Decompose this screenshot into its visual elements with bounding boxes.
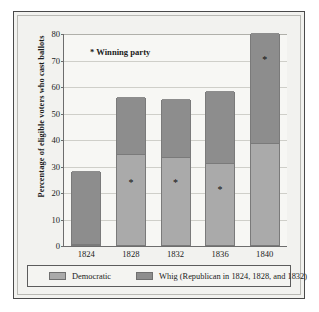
y-tick-mark [61, 34, 64, 35]
y-tick-label: 30 [51, 162, 60, 172]
x-tick-label: 1832 [167, 249, 184, 259]
bar-segment-whig [206, 91, 234, 164]
bar-segment-democratic [162, 158, 190, 245]
y-tick-label: 80 [51, 29, 60, 39]
plot-area: * Winning party 010203040506070801824182… [63, 34, 287, 247]
legend-swatch-whig [136, 272, 153, 280]
bar-segment-whig [251, 33, 279, 144]
legend-swatch-democratic [49, 272, 66, 280]
winning-party-marker: * [218, 185, 223, 195]
bar-segment-whig [162, 99, 190, 157]
bar-1824: 1824 [71, 172, 101, 246]
y-tick-label: 0 [56, 241, 60, 251]
legend-label-democratic: Democratic [72, 272, 111, 281]
x-tick-label: 1828 [122, 249, 139, 259]
y-tick-label: 60 [51, 82, 60, 92]
winning-party-marker: * [173, 178, 178, 188]
y-tick-mark [61, 61, 64, 62]
x-tick-label: 1836 [212, 249, 229, 259]
y-tick-label: 50 [51, 109, 60, 119]
y-tick-mark [61, 246, 64, 247]
bar-segment-whig [72, 171, 100, 245]
chart-figure-inner: Percentage of eligible voters who cast b… [17, 15, 301, 295]
y-tick-mark [61, 114, 64, 115]
x-tick-label: 1824 [78, 249, 95, 259]
legend-item-democratic: Democratic [49, 272, 111, 281]
y-tick-label: 10 [51, 215, 60, 225]
bar-1840: 1840 [250, 34, 280, 246]
bar-segment-democratic [251, 144, 279, 245]
bar-segment-democratic [117, 155, 145, 245]
bar-1832: 1832 [161, 100, 191, 246]
y-tick-mark [61, 140, 64, 141]
y-tick-mark [61, 193, 64, 194]
chart-legend: Democratic Whig (Republican in 1824, 182… [27, 265, 291, 287]
x-tick-label: 1840 [256, 249, 273, 259]
y-tick-label: 20 [51, 188, 60, 198]
y-tick-mark [61, 220, 64, 221]
legend-item-whig: Whig (Republican in 1824, 1828, and 1832… [136, 272, 307, 281]
winning-party-marker: * [262, 55, 267, 65]
y-tick-mark [61, 167, 64, 168]
y-axis-title: Percentage of eligible voters who cast b… [37, 17, 46, 217]
bar-segment-whig [117, 97, 145, 155]
y-tick-label: 40 [51, 135, 60, 145]
y-tick-label: 70 [51, 56, 60, 66]
bar-segment-democratic [206, 164, 234, 245]
legend-label-whig: Whig (Republican in 1824, 1828, and 1832… [159, 272, 307, 281]
y-tick-mark [61, 87, 64, 88]
bar-1828: 1828 [116, 98, 146, 246]
winning-party-annotation: * Winning party [90, 47, 150, 57]
bar-1836: 1836 [205, 92, 235, 246]
chart-figure: Percentage of eligible voters who cast b… [13, 11, 305, 299]
winning-party-marker: * [128, 178, 133, 188]
